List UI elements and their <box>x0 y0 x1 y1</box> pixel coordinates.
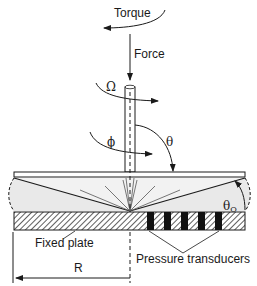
phi-arrow-icon <box>90 132 152 154</box>
theta-label: θ <box>166 135 173 149</box>
transducer <box>147 212 154 230</box>
right-meniscus <box>245 178 250 211</box>
force-indicator: Force <box>130 34 165 80</box>
theta-indicator: θ <box>135 125 173 171</box>
phi-indicator: ϕ <box>90 132 152 154</box>
fixed-plate <box>14 212 245 230</box>
transducers-callout: Pressure transducers <box>136 231 250 266</box>
left-meniscus <box>9 178 14 211</box>
fixed-plate-callout: Fixed plate <box>35 231 94 250</box>
fixed-plate-label: Fixed plate <box>35 236 94 250</box>
omega-label: Ω <box>106 80 116 94</box>
phi-label: ϕ <box>107 135 115 149</box>
diagram-canvas: Torque Force Ω ϕ θ <box>0 0 257 286</box>
force-label: Force <box>134 47 165 61</box>
transducer <box>181 212 188 230</box>
radius-label: R <box>74 261 83 275</box>
torque-indicator: Torque <box>104 6 165 28</box>
torque-label: Torque <box>114 6 151 20</box>
pressure-transducers-label: Pressure transducers <box>136 252 250 266</box>
transducer <box>198 212 205 230</box>
rheometer-diagram: Torque Force Ω ϕ θ <box>0 0 257 286</box>
transducer <box>164 212 171 230</box>
transducer <box>215 212 222 230</box>
